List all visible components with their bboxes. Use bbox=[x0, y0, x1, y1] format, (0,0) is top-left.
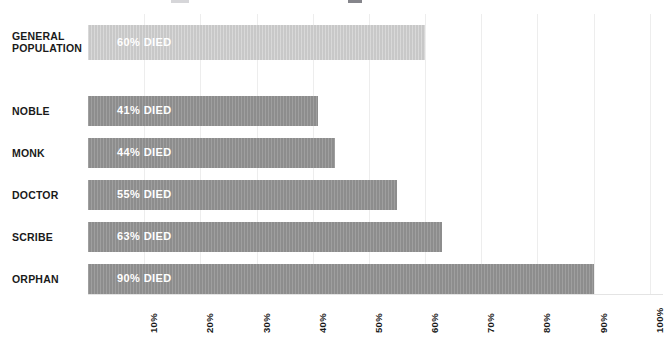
x-tick-label: 90% bbox=[598, 313, 609, 333]
category-label-line: ORPHAN bbox=[12, 273, 84, 286]
category-label-scribe: SCRIBE bbox=[12, 231, 84, 244]
category-label-line: NOBLE bbox=[12, 105, 84, 118]
category-label-monk: MONK bbox=[12, 147, 84, 160]
bar-value-label: 63% DIED bbox=[117, 230, 172, 242]
category-label-noble: NOBLE bbox=[12, 105, 84, 118]
bar-value-label: 44% DIED bbox=[117, 146, 172, 158]
x-tick-label: 60% bbox=[429, 313, 440, 333]
bar-value-label: 41% DIED bbox=[117, 104, 172, 116]
x-tick-label: 50% bbox=[373, 313, 384, 333]
x-tick-label: 10% bbox=[148, 313, 159, 333]
x-tick-label: 80% bbox=[541, 313, 552, 333]
category-label-line: POPULATION bbox=[12, 42, 84, 55]
bar-value-label: 55% DIED bbox=[117, 188, 172, 200]
x-tick-label: 30% bbox=[261, 313, 272, 333]
x-axis-baseline bbox=[88, 294, 663, 295]
category-label-line: GENERAL bbox=[12, 30, 84, 43]
category-label-line: MONK bbox=[12, 147, 84, 160]
gridline-100 bbox=[650, 14, 651, 295]
gridline-80 bbox=[537, 14, 538, 295]
gridline-70 bbox=[481, 14, 482, 295]
category-label-line: SCRIBE bbox=[12, 231, 84, 244]
x-tick-label: 100% bbox=[654, 308, 665, 334]
category-label-orphan: ORPHAN bbox=[12, 273, 84, 286]
gridline-60 bbox=[425, 14, 426, 295]
category-label-doctor: DOCTOR bbox=[12, 189, 84, 202]
bar-value-label: 60% DIED bbox=[117, 36, 172, 48]
x-tick-label: 40% bbox=[317, 313, 328, 333]
category-label-general-population: GENERALPOPULATION bbox=[12, 30, 84, 55]
cropped-title-remnant-right bbox=[348, 0, 362, 3]
bar-value-label: 90% DIED bbox=[117, 272, 172, 284]
category-label-line: DOCTOR bbox=[12, 189, 84, 202]
x-tick-label: 20% bbox=[204, 313, 215, 333]
gridline-90 bbox=[594, 14, 595, 295]
cropped-title-remnant-left bbox=[171, 0, 189, 3]
x-tick-label: 70% bbox=[485, 313, 496, 333]
